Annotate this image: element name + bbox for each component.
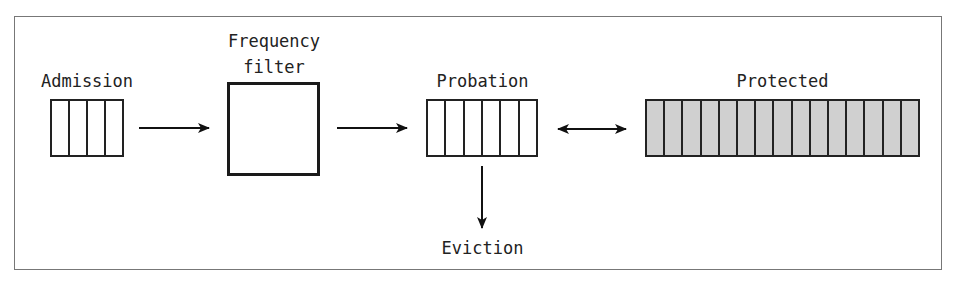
- arrows-layer: [0, 0, 957, 281]
